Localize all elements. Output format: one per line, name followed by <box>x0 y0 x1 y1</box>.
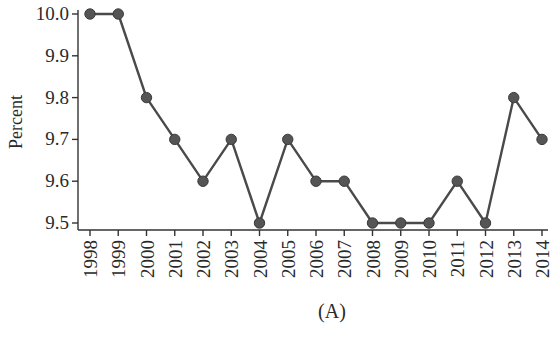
x-tick-label: 1999 <box>108 240 129 278</box>
x-tick-label: 2000 <box>137 240 158 278</box>
data-point <box>311 176 321 186</box>
data-point <box>480 218 490 228</box>
x-tick-label: 2001 <box>165 240 186 278</box>
y-axis-title: Percent <box>6 95 26 149</box>
data-point <box>537 134 547 144</box>
x-tick-label: 2011 <box>447 240 468 277</box>
data-point <box>367 218 377 228</box>
data-point <box>424 218 434 228</box>
x-tick-label: 2013 <box>504 240 525 278</box>
chart-caption: (A) <box>318 300 346 323</box>
cutoff-text-fragment <box>20 329 540 339</box>
y-tick-label: 9.9 <box>45 45 69 66</box>
data-point <box>141 92 151 102</box>
data-point <box>254 218 264 228</box>
y-axis: 9.59.69.79.89.910.0 <box>36 3 78 233</box>
x-tick-label: 2005 <box>278 240 299 278</box>
x-tick-label: 2003 <box>221 240 242 278</box>
y-tick-label: 9.5 <box>45 212 69 233</box>
data-point <box>283 134 293 144</box>
data-point <box>170 134 180 144</box>
x-tick-label: 2012 <box>476 240 497 278</box>
data-point <box>339 176 349 186</box>
data-point <box>226 134 236 144</box>
x-tick-label: 2004 <box>250 240 271 279</box>
x-tick-label: 2014 <box>532 240 553 279</box>
x-tick-label: 2009 <box>391 240 412 278</box>
y-tick-label: 10.0 <box>36 3 69 24</box>
x-tick-label: 2002 <box>193 240 214 278</box>
data-point <box>396 218 406 228</box>
line-chart: 9.59.69.79.89.910.0 19981999200020012002… <box>0 0 556 339</box>
x-tick-label: 2010 <box>419 240 440 278</box>
x-tick-label: 2008 <box>363 240 384 278</box>
series-line <box>90 14 542 223</box>
data-point <box>113 9 123 19</box>
data-points <box>85 9 547 228</box>
x-tick-label: 2007 <box>334 240 355 278</box>
data-point <box>452 176 462 186</box>
y-tick-label: 9.6 <box>45 170 69 191</box>
data-point <box>198 176 208 186</box>
x-axis: 1998199920002001200220032004200520062007… <box>78 230 553 278</box>
x-tick-label: 1998 <box>80 240 101 278</box>
data-point <box>85 9 95 19</box>
y-tick-label: 9.8 <box>45 87 69 108</box>
data-point <box>509 92 519 102</box>
y-tick-label: 9.7 <box>45 128 69 149</box>
x-tick-label: 2006 <box>306 240 327 278</box>
